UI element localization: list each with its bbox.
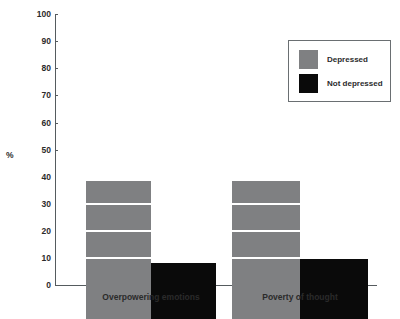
y-tick-100: 100 [17,10,51,19]
y-tick-80: 80 [17,64,51,73]
legend-swatch-depressed [299,50,318,69]
legend-item-not-depressed: Not depressed [299,74,383,93]
y-tick-90: 90 [17,37,51,46]
y-tickmark-10 [55,258,58,259]
y-tick-60: 60 [17,119,51,128]
y-tick-30: 30 [17,200,51,209]
y-tickmark-30 [55,204,58,205]
x-category-label-1: Poverty of thought [262,292,338,302]
legend-label-not-depressed: Not depressed [327,79,383,88]
y-tick-0: 0 [17,281,51,290]
y-tick-10: 10 [17,254,51,263]
legend-label-depressed: Depressed [327,55,368,64]
y-tick-20: 20 [17,227,51,236]
bar-not-depressed-poverty-of-thought [300,259,368,319]
y-tick-70: 70 [17,91,51,100]
bar-group-overpowering-emotions [86,48,216,319]
y-tickmark-50 [55,150,58,151]
top-margin-spacer [0,0,400,4]
y-tickmark-20 [55,231,58,232]
bar-chart: 100 90 80 70 60 50 40 30 20 10 0 % Overp… [0,0,400,319]
y-tickmark-80 [55,68,58,69]
y-tickmark-100 [55,14,58,15]
y-tick-50: 50 [17,146,51,155]
y-axis-tick-labels: 100 90 80 70 60 50 40 30 20 10 0 [8,0,51,319]
y-tick-40: 40 [17,173,51,182]
legend: Depressed Not depressed [288,40,391,102]
y-tickmark-60 [55,123,58,124]
legend-item-depressed: Depressed [299,50,368,69]
y-tickmark-90 [55,41,58,42]
y-axis-title: % [6,150,14,160]
y-tickmark-40 [55,177,58,178]
y-tickmark-70 [55,95,58,96]
x-category-label-0: Overpowering emotions [102,292,199,302]
legend-swatch-not-depressed [299,74,318,93]
